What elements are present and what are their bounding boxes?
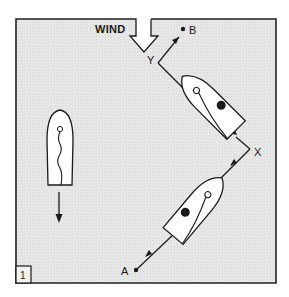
panel-number: 1 <box>20 270 26 281</box>
point-b-marker <box>181 27 185 31</box>
sailing-diagram: WIND A B X Y <box>0 0 289 297</box>
point-a-label: A <box>121 265 129 277</box>
point-a-marker <box>134 268 138 272</box>
point-x-label: X <box>254 146 262 158</box>
wind-label: WIND <box>95 23 126 35</box>
point-b-label: B <box>189 24 196 36</box>
mast-icon <box>57 126 62 131</box>
point-y-label: Y <box>147 54 155 66</box>
